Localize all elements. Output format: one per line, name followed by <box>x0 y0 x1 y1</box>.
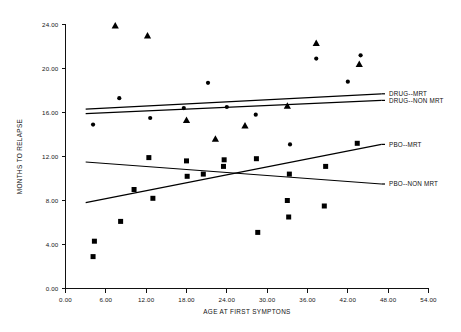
x-tick-label: 0.00 <box>59 296 72 303</box>
data-point <box>150 196 155 201</box>
data-point <box>355 141 360 146</box>
data-point <box>144 32 151 38</box>
data-point <box>356 61 363 67</box>
data-point <box>225 105 229 109</box>
data-point <box>146 155 151 160</box>
data-point <box>118 219 123 224</box>
data-point <box>359 53 363 57</box>
x-axis-title: AGE AT FIRST SYMPTONS <box>203 308 291 315</box>
data-point <box>314 57 318 61</box>
x-tick-label: 54.00 <box>420 296 437 303</box>
y-axis-title: MONTHS TO RELAPSE <box>16 119 23 194</box>
data-point <box>285 198 290 203</box>
data-point <box>254 113 258 117</box>
data-point <box>288 142 292 146</box>
legend-label: PBO--MRT <box>389 141 422 148</box>
data-point <box>313 40 320 46</box>
x-tick-label: 6.00 <box>99 296 112 303</box>
data-point <box>254 156 259 161</box>
x-tick-label: 30.00 <box>259 296 276 303</box>
x-tick-label: 24.00 <box>219 296 236 303</box>
x-tick-label: 42.00 <box>340 296 357 303</box>
data-point <box>222 157 227 162</box>
data-point <box>346 80 350 84</box>
axis-ticks: 0.006.0012.0018.0024.0030.0036.0042.0048… <box>42 21 437 303</box>
chart-legend: DRUG--MRTDRUG--NON MRTPBO--MRTPBO--NON M… <box>381 90 443 187</box>
data-point <box>91 123 95 127</box>
data-point <box>183 117 190 123</box>
data-point <box>92 239 97 244</box>
data-point <box>221 164 226 169</box>
axes-layer <box>66 25 429 289</box>
data-point <box>112 22 119 28</box>
data-point <box>287 172 292 177</box>
data-point <box>185 174 190 179</box>
x-tick-label: 18.00 <box>178 296 195 303</box>
y-tick-label: 16.00 <box>42 109 59 116</box>
x-tick-label: 12.00 <box>138 296 155 303</box>
data-point <box>117 96 121 100</box>
chart-canvas: 0.006.0012.0018.0024.0030.0036.0042.0048… <box>0 0 461 332</box>
scatter-chart: 0.006.0012.0018.0024.0030.0036.0042.0048… <box>0 0 461 332</box>
data-point <box>255 230 260 235</box>
y-tick-label: 4.00 <box>46 241 59 248</box>
regression-line <box>86 162 382 184</box>
x-tick-label: 48.00 <box>380 296 397 303</box>
x-tick-label: 36.00 <box>299 296 316 303</box>
data-point <box>182 106 186 110</box>
data-point <box>284 102 291 108</box>
y-tick-label: 24.00 <box>42 21 59 28</box>
data-point <box>184 158 189 163</box>
legend-label: DRUG--NON MRT <box>389 97 444 104</box>
data-point <box>322 204 327 209</box>
data-point <box>201 172 206 177</box>
y-tick-label: 12.00 <box>42 153 59 160</box>
y-tick-label: 20.00 <box>42 65 59 72</box>
data-point <box>132 187 137 192</box>
data-point <box>241 122 248 128</box>
y-tick-label: 8.00 <box>46 197 59 204</box>
axis-spines <box>66 25 429 289</box>
y-tick-label: 0.00 <box>46 285 59 292</box>
data-point <box>91 254 96 259</box>
data-point <box>148 116 152 120</box>
data-point <box>212 135 219 141</box>
legend-label: PBO--NON MRT <box>389 180 438 187</box>
data-point <box>323 164 328 169</box>
data-points <box>91 22 363 259</box>
data-point <box>286 215 291 220</box>
data-point <box>206 81 210 85</box>
regression-lines <box>86 94 382 203</box>
